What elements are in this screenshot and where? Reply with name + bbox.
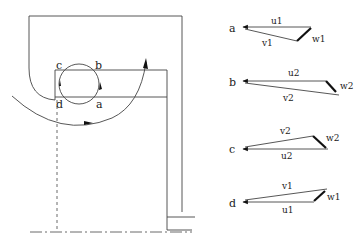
w-vector [314,191,325,201]
inner-block [55,70,167,230]
u-label: u1 [282,205,294,215]
v-label: v1 [281,181,293,191]
diagram-canvas: c b d a a u1 v1 w1 b u2 v2 w2 c v2 u2 w2… [0,0,362,244]
cross-section-figure: c b d a [12,16,195,232]
v-vector [245,136,313,147]
triangle-label-d: d [229,197,236,210]
circle-arrow-icon [99,82,102,90]
w-vector [326,81,336,92]
outer-casing [29,16,182,212]
velocity-triangle-a: a u1 v1 w1 [229,16,325,48]
u-label: u2 [281,151,293,161]
u-label: u2 [288,68,300,78]
u-label: u1 [271,16,283,26]
triangle-label-b: b [229,76,236,89]
triangle-label-a: a [229,22,236,35]
v-label: v2 [279,126,291,136]
w-label: w2 [340,81,353,91]
velocity-triangle-d: d v1 u1 w1 [229,181,340,215]
w-vector [313,136,326,148]
w-vector [297,28,311,41]
point-label-a: a [96,98,103,111]
velocity-triangle-c: c v2 u2 w2 [229,126,339,161]
velocity-triangle-b: b u2 v2 w2 [229,68,353,103]
sweep-arc [12,62,146,125]
w-label: w1 [327,192,340,202]
point-label-c: c [56,59,62,72]
w-label: w1 [312,34,325,44]
point-label-d: d [56,98,63,111]
v-label: v1 [261,38,273,48]
point-label-b: b [95,59,102,72]
base-step [167,217,195,230]
arc-arrow-icon [143,58,148,69]
triangle-label-c: c [229,143,235,156]
w-label: w2 [326,133,339,143]
v-label: v2 [282,93,294,103]
